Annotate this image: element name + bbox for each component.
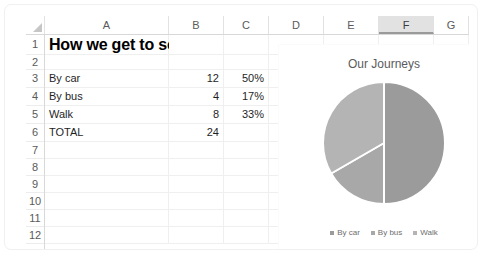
cell-a4-label[interactable]: By bus <box>45 88 169 106</box>
row-header-12[interactable]: 12 <box>26 227 44 244</box>
cell-c1[interactable] <box>224 35 269 55</box>
row-header-10[interactable]: 10 <box>26 193 44 210</box>
cell-b4-count[interactable]: 4 <box>169 88 224 106</box>
cell-c3-percent[interactable]: 50% <box>224 70 269 88</box>
cell-b9[interactable] <box>169 176 224 193</box>
legend-swatch-icon <box>330 231 334 235</box>
column-header-d[interactable]: D <box>269 16 324 34</box>
column-header-e[interactable]: E <box>324 16 379 34</box>
pie-plot-area <box>279 79 469 207</box>
cell-c7[interactable] <box>224 142 269 159</box>
row-header-3[interactable]: 3 <box>26 70 44 88</box>
legend-label: Walk <box>420 228 437 237</box>
cell-b10[interactable] <box>169 193 224 210</box>
legend-swatch-icon <box>413 231 417 235</box>
cell-b3-count[interactable]: 12 <box>169 70 224 88</box>
cell-a2[interactable] <box>45 55 169 70</box>
cell-a10[interactable] <box>45 193 169 210</box>
cell-c11[interactable] <box>224 210 269 227</box>
cell-a3-label[interactable]: By car <box>45 70 169 88</box>
cell-b11[interactable] <box>169 210 224 227</box>
legend-label: By bus <box>378 228 402 237</box>
column-header-g[interactable]: G <box>434 16 469 34</box>
cell-c6[interactable] <box>224 124 269 142</box>
cell-c4-percent[interactable]: 17% <box>224 88 269 106</box>
spreadsheet-grid[interactable]: ABCDEFG 123456789101112 How we get to sc… <box>26 16 469 249</box>
cell-a7[interactable] <box>45 142 169 159</box>
cell-c9[interactable] <box>224 176 269 193</box>
cell-a1-title[interactable]: How we get to school <box>45 35 169 55</box>
legend-item-by-bus[interactable]: By bus <box>371 228 402 237</box>
chart-title: Our Journeys <box>279 57 469 71</box>
row-header-9[interactable]: 9 <box>26 176 44 193</box>
cell-b12[interactable] <box>169 227 224 244</box>
spreadsheet-screenshot: ABCDEFG 123456789101112 How we get to sc… <box>0 0 484 256</box>
cell-b6-total-count[interactable]: 24 <box>169 124 224 142</box>
cell-a5-label[interactable]: Walk <box>45 106 169 124</box>
chart-legend: By carBy busWalk <box>279 228 469 237</box>
legend-label: By car <box>337 228 360 237</box>
pie-svg <box>320 79 448 207</box>
row-header-11[interactable]: 11 <box>26 210 44 227</box>
cell-c12[interactable] <box>224 227 269 244</box>
cell-c10[interactable] <box>224 193 269 210</box>
cell-c8[interactable] <box>224 159 269 176</box>
legend-item-by-car[interactable]: By car <box>330 228 360 237</box>
row-header-4[interactable]: 4 <box>26 88 44 106</box>
image-frame: ABCDEFG 123456789101112 How we get to sc… <box>4 4 478 250</box>
column-header-c[interactable]: C <box>224 16 269 34</box>
cell-a6-total-label[interactable]: TOTAL <box>45 124 169 142</box>
pie-chart-object[interactable]: Our Journeys By carBy busWalk <box>278 44 469 249</box>
select-all-corner[interactable] <box>26 16 45 34</box>
column-header-row: ABCDEFG <box>26 16 469 35</box>
pie-slice-by-car[interactable] <box>384 82 445 204</box>
row-header-2[interactable]: 2 <box>26 55 44 70</box>
column-header-f[interactable]: F <box>379 16 434 34</box>
cell-b5-count[interactable]: 8 <box>169 106 224 124</box>
row-header-8[interactable]: 8 <box>26 159 44 176</box>
row-header-5[interactable]: 5 <box>26 106 44 124</box>
cell-a8[interactable] <box>45 159 169 176</box>
cell-a12[interactable] <box>45 227 169 244</box>
row-header-1[interactable]: 1 <box>26 35 44 55</box>
legend-swatch-icon <box>371 231 375 235</box>
cell-b1[interactable] <box>169 35 224 55</box>
cell-b8[interactable] <box>169 159 224 176</box>
column-header-a[interactable]: A <box>45 16 169 34</box>
cell-b7[interactable] <box>169 142 224 159</box>
cell-b2[interactable] <box>169 55 224 70</box>
cell-c2[interactable] <box>224 55 269 70</box>
row-header-column: 123456789101112 <box>26 35 45 249</box>
select-all-triangle-icon <box>33 23 42 32</box>
row-header-7[interactable]: 7 <box>26 142 44 159</box>
cell-c5-percent[interactable]: 33% <box>224 106 269 124</box>
legend-item-walk[interactable]: Walk <box>413 228 437 237</box>
cell-a9[interactable] <box>45 176 169 193</box>
column-header-b[interactable]: B <box>169 16 224 34</box>
row-header-6[interactable]: 6 <box>26 124 44 142</box>
cell-a11[interactable] <box>45 210 169 227</box>
